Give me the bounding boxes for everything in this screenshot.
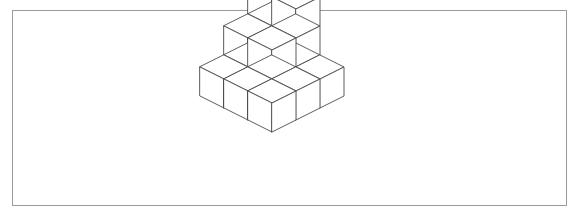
cube — [248, 79, 296, 132]
isometric-cube-stack — [0, 0, 578, 223]
figure-root — [0, 0, 578, 223]
cube-layer — [200, 0, 344, 132]
